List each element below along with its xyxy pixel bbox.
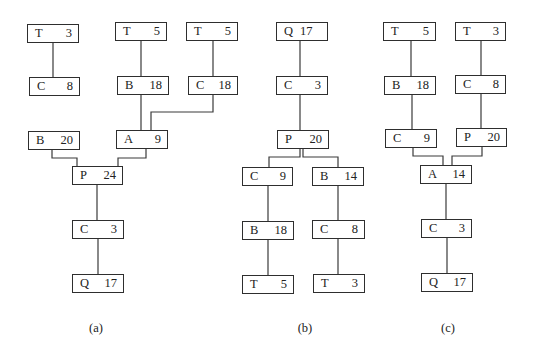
node-value: 17 <box>454 274 467 291</box>
node-c_t3: T3 <box>455 22 506 41</box>
node-label: A <box>124 131 133 148</box>
node-value: 17 <box>300 23 313 40</box>
node-label: C <box>393 130 401 147</box>
node-b_c9: C9 <box>242 167 293 186</box>
node-label: C <box>284 77 292 94</box>
node-value: 5 <box>281 276 287 293</box>
node-value: 8 <box>493 76 499 93</box>
node-label: T <box>321 275 329 292</box>
node-label: P <box>464 129 471 146</box>
node-label: C <box>37 78 45 95</box>
node-c_q17: Q17 <box>421 273 473 292</box>
edge-b-3 <box>303 149 338 167</box>
node-label: A <box>428 166 437 183</box>
node-a_q17: Q17 <box>72 274 124 293</box>
node-value: 14 <box>453 166 466 183</box>
edge-b-2 <box>269 149 300 167</box>
node-label: B <box>392 77 400 94</box>
node-b_c8: C8 <box>312 220 365 239</box>
node-label: B <box>320 168 328 185</box>
node-value: 3 <box>352 275 358 292</box>
edge-a-5 <box>118 149 146 166</box>
node-a_b20: B20 <box>28 131 80 150</box>
node-label: T <box>463 23 471 40</box>
node-a_t3: T3 <box>27 24 79 43</box>
node-a_p24: P24 <box>72 166 123 185</box>
node-value: 18 <box>150 77 163 94</box>
node-value: 3 <box>493 23 499 40</box>
node-value: 5 <box>225 23 231 40</box>
node-c_c9: C9 <box>385 129 437 148</box>
node-b_t5: T5 <box>242 275 294 294</box>
node-c_p20: P20 <box>456 128 507 147</box>
node-value: 5 <box>423 23 429 40</box>
node-value: 14 <box>345 168 358 185</box>
node-b_q17: Q17 <box>276 22 328 41</box>
node-value: 3 <box>459 220 465 237</box>
node-value: 3 <box>66 25 72 42</box>
node-b_t3: T3 <box>313 274 365 293</box>
node-c_c8: C8 <box>455 75 506 94</box>
node-label: T <box>35 25 43 42</box>
node-a_b18: B18 <box>117 76 169 95</box>
node-a_c3: C3 <box>72 220 124 239</box>
node-label: T <box>391 23 399 40</box>
node-label: T <box>250 276 258 293</box>
edge-a-4 <box>52 150 77 166</box>
node-c_b18: B18 <box>384 76 436 95</box>
node-a_c8: C8 <box>29 77 80 96</box>
node-label: C <box>250 168 258 185</box>
node-label: B <box>36 132 44 149</box>
node-value: 9 <box>424 130 430 147</box>
node-label: Q <box>284 23 293 40</box>
edge-c-5 <box>452 147 482 165</box>
node-label: B <box>250 222 258 239</box>
panel-caption-a: (a) <box>89 321 103 335</box>
node-value: 5 <box>154 23 160 40</box>
node-value: 18 <box>275 222 288 239</box>
panel-caption-b: (b) <box>298 321 313 335</box>
node-b_b18: B18 <box>242 221 294 240</box>
edge-a-3 <box>151 95 213 130</box>
node-label: P <box>285 131 292 148</box>
node-a_c18: C18 <box>188 76 238 95</box>
node-label: C <box>196 77 204 94</box>
node-value: 18 <box>219 77 232 94</box>
node-value: 20 <box>488 129 501 146</box>
node-label: B <box>125 77 133 94</box>
node-value: 3 <box>315 77 321 94</box>
node-b_b14: B14 <box>312 167 364 186</box>
node-b_p20: P20 <box>277 130 329 149</box>
node-value: 9 <box>155 131 161 148</box>
node-label: T <box>123 23 131 40</box>
node-label: Q <box>80 275 89 292</box>
node-a_a9: A9 <box>116 130 168 149</box>
panel-caption-c: (c) <box>441 321 455 335</box>
node-label: Q <box>429 274 438 291</box>
node-value: 18 <box>417 77 430 94</box>
node-value: 8 <box>352 221 358 238</box>
node-value: 20 <box>310 131 323 148</box>
node-a_t5_2: T5 <box>186 22 238 41</box>
node-b_c3: C3 <box>276 76 328 95</box>
node-value: 20 <box>61 132 74 149</box>
node-c_t5: T5 <box>383 22 436 41</box>
node-value: 9 <box>280 168 286 185</box>
node-c_c3: C3 <box>421 219 472 238</box>
node-value: 17 <box>105 275 118 292</box>
edge-c-4 <box>413 148 443 165</box>
tree-diagram: T3T5T5C8B18C18B20A9P24C3Q17(a)Q17C3P20C9… <box>0 0 533 349</box>
node-label: C <box>320 221 328 238</box>
node-label: C <box>80 221 88 238</box>
node-label: P <box>80 167 87 184</box>
node-label: C <box>429 220 437 237</box>
node-value: 24 <box>104 167 117 184</box>
node-value: 3 <box>111 221 117 238</box>
node-c_a14: A14 <box>420 165 472 184</box>
node-a_t5_1: T5 <box>115 22 167 41</box>
node-label: T <box>194 23 202 40</box>
node-label: C <box>463 76 471 93</box>
node-value: 8 <box>67 78 73 95</box>
